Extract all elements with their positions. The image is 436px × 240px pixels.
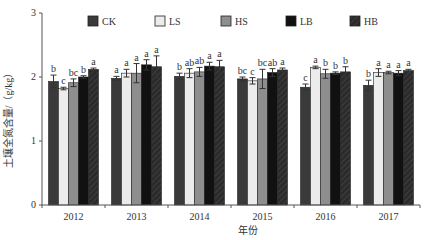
bar-hs (321, 74, 331, 205)
significance-label: bc (238, 65, 248, 76)
legend-swatch-ls (155, 16, 165, 26)
legend-label-hb: HB (364, 16, 378, 27)
bar-ls (248, 81, 258, 205)
x-tick-label: 2014 (190, 211, 210, 222)
legend-swatch-hs (221, 16, 231, 26)
significance-label: a (406, 57, 411, 68)
bar-hs (132, 73, 142, 205)
bar-ck (301, 87, 311, 205)
bar-hb (404, 71, 414, 205)
bar-hb (215, 67, 225, 205)
x-tick-label: 2013 (127, 211, 147, 222)
significance-label: a (124, 57, 129, 68)
bar-ck (364, 85, 374, 205)
significance-label: a (134, 52, 139, 63)
x-axis-title: 年份 (238, 224, 258, 236)
y-tick-label: 2 (31, 71, 36, 82)
bar-hs (258, 79, 268, 205)
bar-lb (142, 65, 152, 205)
significance-label: a (144, 48, 149, 59)
bar-hb (152, 67, 162, 205)
bar-ls (59, 89, 69, 205)
bar-ls (311, 67, 321, 205)
significance-label: ab (268, 57, 277, 68)
x-tick-label: 2017 (379, 211, 399, 222)
bar-hb (89, 69, 99, 205)
significance-label: b (177, 61, 182, 72)
legend-label-hs: HS (235, 16, 248, 27)
bar-hs (195, 72, 205, 205)
significance-label: a (91, 56, 96, 67)
significance-label: b (323, 57, 328, 68)
significance-label: a (114, 64, 119, 75)
bar-hb (341, 72, 351, 205)
significance-label: c (303, 72, 308, 83)
significance-label: a (280, 56, 285, 67)
bar-chart: CKLSHSLBHB babbccbcaabcaabcaabbcbabaaabb… (0, 0, 436, 240)
bar-hs (384, 73, 394, 205)
significance-label: b (333, 60, 338, 71)
significance-label: a (396, 59, 401, 70)
significance-label: b (343, 55, 348, 66)
significance-label: a (386, 59, 391, 70)
significance-label: a (154, 44, 159, 55)
bar-hs (69, 83, 79, 205)
bar-ls (374, 73, 384, 205)
legend-swatch-hb (350, 16, 360, 26)
y-axis-title: 土壤全氮含量/（g/kg） (2, 68, 14, 169)
bar-ck (112, 78, 122, 205)
significance-label: a (376, 57, 381, 68)
y-tick-label: 0 (31, 199, 36, 210)
legend-swatch-lb (286, 16, 296, 26)
significance-label: a (217, 48, 222, 59)
bar-lb (79, 77, 89, 205)
significance-label: ab (185, 57, 194, 68)
significance-label: bc (69, 67, 79, 78)
significance-label: ab (195, 55, 204, 66)
significance-label: bc (258, 57, 268, 68)
chart-legend: CKLSHSLBHB (88, 16, 378, 27)
bar-lb (331, 73, 341, 205)
legend-label-lb: LB (300, 16, 313, 27)
legend-swatch-ck (88, 16, 98, 26)
bar-hb (278, 70, 288, 205)
y-tick-label: 1 (31, 135, 36, 146)
bar-ck (238, 79, 248, 205)
y-tick-label: 3 (31, 7, 36, 18)
bar-ls (122, 73, 132, 205)
bar-series: babbccbcaabcaabcaabbcbabaaabbaaaaaba (49, 44, 414, 205)
legend-label-ls: LS (169, 16, 181, 27)
bar-lb (394, 73, 404, 205)
x-tick-label: 2015 (253, 211, 273, 222)
bar-lb (268, 73, 278, 205)
bar-ck (49, 81, 59, 205)
significance-label: b (51, 63, 56, 74)
significance-label: b (81, 64, 86, 75)
x-tick-label: 2012 (64, 211, 84, 222)
x-tick-label: 2016 (316, 211, 336, 222)
bar-lb (205, 66, 215, 205)
significance-label: b (366, 68, 371, 79)
significance-label: c (61, 75, 66, 86)
bar-ck (175, 76, 185, 205)
bar-ls (185, 73, 195, 205)
significance-label: a (313, 54, 318, 65)
legend-label-ck: CK (102, 16, 117, 27)
significance-label: a (207, 50, 212, 61)
significance-label: c (250, 66, 255, 77)
